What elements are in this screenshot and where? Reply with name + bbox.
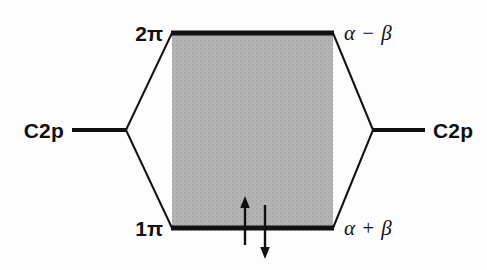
correlation-line-right-bonding [333, 130, 373, 228]
label-atomic-orbital-right-text: C2p [433, 119, 473, 142]
label-bonding-orbital: 1π [135, 218, 163, 239]
label-atomic-orbital-left-text: C2p [24, 119, 64, 142]
mo-diagram-figure: 2π α − β 1π α + β C2p C2p [0, 0, 487, 270]
correlation-line-left-antibonding [126, 33, 172, 130]
label-atomic-orbital-left: C2p [24, 120, 64, 141]
mo-diagram-canvas [0, 0, 487, 270]
label-bonding-orbital-text: 1π [135, 217, 163, 240]
label-antibonding-energy: α − β [344, 23, 392, 44]
label-bonding-energy: α + β [344, 218, 392, 239]
label-bonding-energy-text: α + β [344, 216, 392, 240]
label-atomic-orbital-right: C2p [433, 120, 473, 141]
label-antibonding-orbital: 2π [135, 23, 163, 44]
correlation-line-right-antibonding [333, 33, 373, 130]
label-antibonding-energy-text: α − β [344, 21, 392, 45]
label-antibonding-orbital-text: 2π [135, 22, 163, 45]
correlation-line-left-bonding [126, 130, 172, 228]
mo-shaded-region [172, 33, 333, 228]
